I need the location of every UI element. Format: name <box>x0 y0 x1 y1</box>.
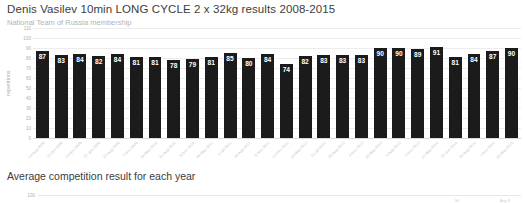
bar-value-label: 74 <box>280 66 293 73</box>
bar-value-label: 83 <box>55 57 68 64</box>
bar-value-label: 90 <box>505 50 518 57</box>
chart-1-bar-slot: 84 <box>71 28 90 138</box>
chart-2-partial-label-left: 90 <box>455 199 459 203</box>
bar[interactable]: 83 <box>55 55 68 138</box>
bar-value-label: 81 <box>149 59 162 66</box>
bar-value-label: 82 <box>92 58 105 65</box>
bar-value-label: 87 <box>36 53 49 60</box>
chart-1-bar-slot: 80 <box>239 28 258 138</box>
bar-value-label: 78 <box>167 62 180 69</box>
chart-1-y-tick-0: 0 <box>14 136 31 141</box>
bar[interactable]: 84 <box>468 54 481 138</box>
bar[interactable]: 85 <box>224 53 237 138</box>
chart-1-x-axis <box>33 138 521 139</box>
bar[interactable]: 81 <box>449 57 462 138</box>
bar[interactable]: 84 <box>73 54 86 138</box>
chart-1-bar-slot: 83 <box>52 28 71 138</box>
chart-1-bar-slot: 83 <box>352 28 371 138</box>
bar[interactable]: 90 <box>505 48 518 138</box>
chart-1-bar-slot: 81 <box>146 28 165 138</box>
chart-1-y-tick-100: 100 <box>14 36 31 41</box>
chart-1-title: Denis Vasilev 10min LONG CYCLE 2 x 32kg … <box>7 3 335 15</box>
bar[interactable]: 79 <box>186 59 199 138</box>
chart-1-x-label-slot: 3-Jul-2011 <box>221 140 240 162</box>
bar-value-label: 83 <box>317 57 330 64</box>
chart-1-x-label-slot: 23-Aug-2014 <box>465 140 484 162</box>
chart-1-bar-slot: 90 <box>390 28 409 138</box>
bar-value-label: 84 <box>468 56 481 63</box>
chart-1-bar-slot: 90 <box>371 28 390 138</box>
bar[interactable]: 82 <box>92 56 105 138</box>
chart-1-y-tick-50: 50 <box>14 86 31 91</box>
bar[interactable]: 78 <box>167 60 180 138</box>
chart-1-y-tick-40: 40 <box>14 96 31 101</box>
bar-value-label: 81 <box>449 59 462 66</box>
bar[interactable]: 81 <box>130 57 143 138</box>
chart-1-x-label-slot: 24-May-2015 <box>502 140 521 162</box>
screenshot-root: Denis Vasilev 10min LONG CYCLE 2 x 32kg … <box>0 0 523 203</box>
chart-1-y-tick-20: 20 <box>14 116 31 121</box>
chart-1-x-tick-labels: 14-Aug-200811-Oct-200814-Nov-200827-Jun-… <box>33 140 521 162</box>
bar[interactable]: 87 <box>486 51 499 138</box>
chart-1-bar-slot: 89 <box>408 28 427 138</box>
bar-value-label: 87 <box>486 53 499 60</box>
bar[interactable]: 81 <box>149 57 162 138</box>
chart-1-y-tick-110: 110 <box>14 26 31 31</box>
x-tick-label: 14-Aug-2008 <box>27 141 45 159</box>
bar-value-label: 85 <box>224 55 237 62</box>
chart-1-bar-slot: 82 <box>89 28 108 138</box>
chart-1-plot-area: repetitions 0102030405060708090100110 87… <box>0 28 523 160</box>
bar[interactable]: 90 <box>374 48 387 138</box>
bar[interactable]: 84 <box>261 54 274 138</box>
chart-1-y-tick-90: 90 <box>14 46 31 51</box>
chart-1-x-label-slot: 21-Aug-2010 <box>164 140 183 162</box>
chart-2-plot-area: 100 90 Avg. 8 <box>0 188 523 203</box>
bar[interactable]: 83 <box>355 55 368 138</box>
chart-1-y-tick-80: 80 <box>14 56 31 61</box>
bar-value-label: 91 <box>430 49 443 56</box>
bar-value-label: 90 <box>392 50 405 57</box>
bar-value-label: 83 <box>336 57 349 64</box>
bar[interactable]: 87 <box>36 51 49 138</box>
bar[interactable]: 74 <box>280 64 293 138</box>
x-tick-label: 3-Jul-2011 <box>218 141 233 156</box>
bar[interactable]: 89 <box>411 49 424 138</box>
bar-value-label: 83 <box>355 57 368 64</box>
chart-1-bar-slot: 79 <box>183 28 202 138</box>
chart-2-partial-label-right: Avg. 8 <box>500 199 510 203</box>
bar-value-label: 89 <box>411 51 424 58</box>
chart-1-bar-slot: 90 <box>502 28 521 138</box>
chart-1-bar-slot: 84 <box>258 28 277 138</box>
bar[interactable]: 80 <box>242 58 255 138</box>
chart-1-x-label-slot: 3-Aug-2013 <box>390 140 409 162</box>
bar-value-label: 84 <box>73 56 86 63</box>
bar[interactable]: 84 <box>111 54 124 138</box>
chart-1-bar-slot: 83 <box>314 28 333 138</box>
chart-1-y-tick-30: 30 <box>14 106 31 111</box>
chart-1-bar-slot: 87 <box>483 28 502 138</box>
chart-1-y-tick-60: 60 <box>14 76 31 81</box>
bar-value-label: 81 <box>205 59 218 66</box>
bar-value-label: 90 <box>374 50 387 57</box>
bar[interactable]: 82 <box>299 56 312 138</box>
chart-2-gridline <box>38 195 521 196</box>
chart-1-bar-slot: 84 <box>108 28 127 138</box>
chart-1-x-label-slot: 25-May-2013 <box>371 140 390 162</box>
chart-1-x-label-slot: 19-May-2012 <box>296 140 315 162</box>
chart-1-bar-slot: 87 <box>33 28 52 138</box>
bar[interactable]: 81 <box>205 57 218 138</box>
bar[interactable]: 90 <box>392 48 405 138</box>
bar-value-label: 80 <box>242 60 255 67</box>
chart-1-bar-slot: 85 <box>221 28 240 138</box>
chart-1-y-axis-label: repetitions <box>5 60 11 106</box>
bar[interactable]: 83 <box>317 55 330 138</box>
chart-1-bar-slot: 82 <box>296 28 315 138</box>
chart-1-bars-container: 8783848284818178798185808474828383839090… <box>33 28 521 138</box>
bar[interactable]: 83 <box>336 55 349 138</box>
chart-1-bar-slot: 84 <box>465 28 484 138</box>
chart-1-bar-slot: 81 <box>446 28 465 138</box>
bar[interactable]: 91 <box>430 47 443 138</box>
chart-1-y-tick-10: 10 <box>14 126 31 131</box>
chart-1-bar-slot: 74 <box>277 28 296 138</box>
chart-1-y-tick-70: 70 <box>14 66 31 71</box>
